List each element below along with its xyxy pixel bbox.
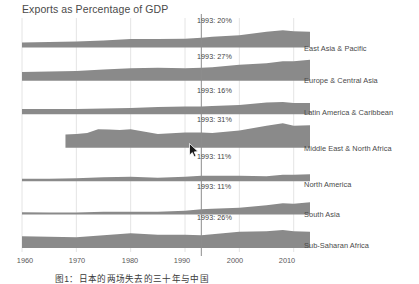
- xtick-2000: 2000: [227, 256, 243, 265]
- annotation-sub-saharan-africa: 1993: 26%: [197, 213, 232, 222]
- mouse-cursor-icon: [189, 143, 201, 159]
- series-label-latin-america-caribbean: Latin America & Caribbean: [304, 108, 393, 117]
- annotation-south-asia: 1993: 11%: [197, 182, 231, 191]
- annotation-middle-east-north-africa: 1993: 31%: [197, 115, 232, 124]
- annotation-north-america: 1993: 11%: [197, 152, 231, 161]
- xtick-1970: 1970: [69, 256, 85, 265]
- series-label-sub-saharan-africa: Sub-Saharan Africa: [304, 241, 369, 250]
- xtick-1990: 1990: [174, 256, 190, 265]
- figure-caption: 图1：日本的两场失去的三十年与中国: [55, 272, 209, 284]
- xtick-2010: 2010: [279, 256, 295, 265]
- annotation-east-asia-pacific: 1993: 20%: [197, 16, 232, 25]
- xtick-1980: 1980: [122, 256, 138, 265]
- series-label-middle-east-north-africa: Middle East & North Africa: [304, 144, 392, 153]
- xtick-1960: 1960: [17, 256, 33, 265]
- annotation-europe-central-asia: 1993: 27%: [197, 52, 232, 61]
- series-label-east-asia-pacific: East Asia & Pacific: [304, 44, 367, 53]
- annotation-latin-america-caribbean: 1993: 16%: [197, 86, 232, 95]
- series-label-south-asia: South Asia: [304, 210, 340, 219]
- series-label-north-america: North America: [304, 180, 351, 189]
- series-label-europe-central-asia: Europe & Central Asia: [304, 76, 378, 85]
